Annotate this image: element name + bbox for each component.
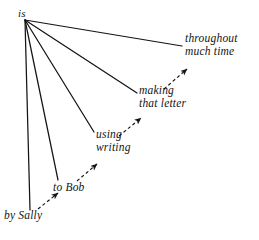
arrow-by-sally-to-to-bob [38, 193, 58, 209]
node-line-1: using [96, 128, 131, 141]
node-label-using-writing: using writing [96, 128, 131, 154]
node-line-2: that letter [139, 97, 186, 110]
node-label-making-that-letter: making that letter [139, 84, 186, 110]
node-label-throughout-much-time: throughout much time [185, 32, 238, 58]
node-label-to-bob: to Bob [53, 181, 85, 194]
dependency-tree-figure: is throughout much time making that lett… [0, 0, 259, 240]
edge-is-to-making-that-letter [25, 20, 137, 93]
node-label-by-sally: by Sally [4, 209, 42, 222]
arrow-to-bob-to-using-writing [77, 164, 97, 181]
edge-is-to-throughout-much-time [25, 20, 182, 46]
edge-is-to-to-bob [25, 20, 58, 180]
node-line-1: making [139, 84, 186, 97]
solid-edge-group [25, 20, 182, 210]
node-line-2: writing [96, 141, 131, 154]
node-line-2: much time [185, 45, 238, 58]
node-line-1: throughout [185, 32, 238, 45]
edge-is-to-using-writing [25, 20, 94, 132]
edge-is-to-by-sally [25, 20, 30, 210]
node-label-is: is [18, 7, 26, 20]
